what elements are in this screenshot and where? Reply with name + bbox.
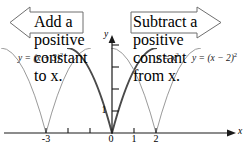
y-axis <box>109 35 116 133</box>
x-tick-label--3: -3 <box>38 133 54 144</box>
left-callout-text: Add a positive constant to x. <box>34 13 84 85</box>
x-axis-label: x <box>238 126 242 136</box>
y-tick-marks <box>112 45 119 111</box>
y-axis-label: y <box>104 29 108 39</box>
right-callout-line2: constant from x. <box>133 49 199 85</box>
left-callout-line2: constant to x. <box>34 49 84 85</box>
figure-root: Add a positive constant to x. Subtract a… <box>0 0 251 148</box>
x-tick-label-0: 0 <box>106 133 116 144</box>
curve-label-right-exponent: 2 <box>234 51 237 58</box>
right-callout-line1: Subtract a positive <box>133 13 199 49</box>
x-tick-marks <box>46 128 156 133</box>
x-tick-label-2: 2 <box>151 133 161 144</box>
right-callout-text: Subtract a positive constant from x. <box>133 13 199 85</box>
left-callout-line1: Add a positive <box>34 13 84 49</box>
y-tick-label-1: 1 <box>99 104 109 115</box>
x-tick-label-1: 1 <box>129 133 139 144</box>
